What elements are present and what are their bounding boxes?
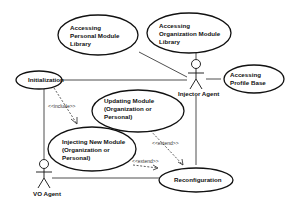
svg-text:VO Agent: VO Agent	[33, 190, 61, 197]
use-case-accessing-profile-base: Accessing Profile Base	[224, 65, 284, 93]
svg-text:Personal): Personal)	[104, 113, 132, 120]
svg-text:Updating Module: Updating Module	[104, 97, 155, 104]
svg-text:(Organization or: (Organization or	[104, 105, 152, 112]
svg-text:Reconfiguration: Reconfiguration	[174, 176, 222, 183]
assoc-injector-personal-library	[139, 52, 187, 77]
actor-head-icon	[192, 60, 201, 69]
use-case-initialization: Initialization	[16, 71, 64, 89]
use-case-accessing-personal-module-library: Accessing Personal Module Library	[58, 15, 138, 55]
svg-text:Accessing: Accessing	[159, 22, 190, 29]
use-case-injecting-new-module: Injecting New Module (Organization or Pe…	[48, 127, 136, 171]
svg-text:Accessing: Accessing	[70, 24, 101, 31]
svg-text:Library: Library	[70, 40, 92, 47]
use-case-diagram: <<include>> <<extend>> <<extend>> Access…	[0, 0, 296, 206]
use-case-updating-module: Updating Module (Organization or Persona…	[92, 90, 184, 132]
actor-head-icon	[40, 160, 49, 169]
extend-label-inject: <<extend>>	[132, 158, 159, 164]
svg-text:Injector Agent: Injector Agent	[178, 90, 219, 97]
svg-text:Personal Module: Personal Module	[70, 32, 120, 39]
use-case-accessing-organization-module-library: Accessing Organization Module Library	[147, 13, 231, 53]
use-case-reconfiguration: Reconfiguration	[159, 168, 233, 192]
svg-text:Organization Module: Organization Module	[159, 30, 221, 37]
actor-injector-agent: Injector Agent	[178, 60, 219, 98]
svg-text:Initialization: Initialization	[28, 76, 64, 83]
svg-text:Accessing: Accessing	[230, 71, 261, 78]
svg-text:(Organization or: (Organization or	[62, 146, 110, 153]
svg-text:Injecting New Module: Injecting New Module	[62, 138, 126, 145]
include-label: <<include>>	[48, 103, 76, 109]
extend-label-update: <<extend>>	[152, 140, 179, 146]
svg-text:Profile Base: Profile Base	[230, 79, 266, 86]
svg-text:Library: Library	[159, 38, 181, 45]
svg-text:Personal): Personal)	[62, 154, 90, 161]
